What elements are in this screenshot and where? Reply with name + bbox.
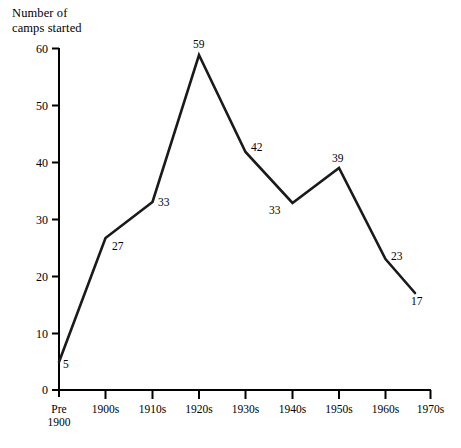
y-tick-label-10: 10 bbox=[22, 328, 48, 340]
y-tick-label-60: 60 bbox=[22, 43, 48, 55]
y-tick-label-30: 30 bbox=[22, 214, 48, 226]
y-axis-ticks bbox=[52, 49, 59, 391]
data-label-1900s: 27 bbox=[112, 240, 124, 252]
data-label-1940s: 33 bbox=[269, 204, 281, 216]
data-label-1910s: 33 bbox=[158, 196, 170, 208]
plot-area bbox=[0, 0, 461, 448]
data-label-1960s: 23 bbox=[391, 250, 403, 262]
data-series-line bbox=[59, 55, 415, 362]
line-chart: Number of camps started bbox=[0, 0, 461, 448]
data-label-1930s: 42 bbox=[251, 141, 263, 153]
y-tick-label-40: 40 bbox=[22, 157, 48, 169]
data-label-1920s: 59 bbox=[193, 38, 205, 50]
data-label-1970s: 17 bbox=[411, 295, 423, 307]
y-tick-label-20: 20 bbox=[22, 271, 48, 283]
y-tick-label-50: 50 bbox=[22, 100, 48, 112]
data-label-1950s: 39 bbox=[332, 152, 344, 164]
data-label-pre-1900: 5 bbox=[63, 358, 69, 370]
x-tick-label-1970s: 1970s bbox=[403, 403, 459, 416]
y-tick-label-0: 0 bbox=[22, 384, 48, 396]
